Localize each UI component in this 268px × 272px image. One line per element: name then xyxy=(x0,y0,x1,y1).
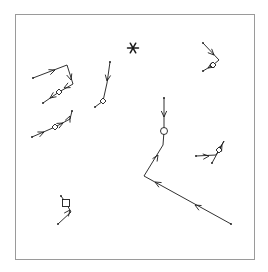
trajectory-canvas xyxy=(0,0,268,272)
trajectory-track-left-diagonal xyxy=(31,110,73,138)
track-start-dot xyxy=(31,136,33,138)
arrowhead xyxy=(203,154,209,159)
track-line xyxy=(203,43,219,71)
trajectory-track-center-main xyxy=(144,97,232,225)
track-line xyxy=(32,111,72,137)
track-end-dot xyxy=(94,106,96,108)
marker-square xyxy=(63,200,70,207)
track-end-dot xyxy=(57,223,59,225)
figure-root xyxy=(0,0,268,272)
trajectory-track-upper-right xyxy=(202,42,219,72)
track-end-dot xyxy=(211,162,213,164)
track-end-dot xyxy=(230,223,232,225)
track-start-dot xyxy=(163,97,165,99)
marker-diamond xyxy=(52,124,58,130)
marker-circle xyxy=(161,128,168,135)
trajectory-track-center-left xyxy=(94,61,111,108)
marker-diamond xyxy=(56,89,62,95)
trajectory-track-upper-left xyxy=(32,65,73,104)
track-start-dot xyxy=(109,61,111,63)
trajectory-track-right-middle xyxy=(195,141,224,164)
trajectory-track-bottom-left xyxy=(57,195,71,225)
arrowhead xyxy=(67,74,72,80)
track-start-dot xyxy=(202,42,204,44)
track-end-dot xyxy=(202,70,204,72)
track-start-dot xyxy=(32,77,34,79)
arrowhead xyxy=(50,93,56,98)
marker-diamond xyxy=(216,147,222,153)
track-start-dot xyxy=(60,195,62,197)
track-end-dot xyxy=(71,110,73,112)
track-end-dot xyxy=(42,102,44,104)
asterisk-marker xyxy=(128,43,139,53)
track-start-dot xyxy=(195,155,197,157)
